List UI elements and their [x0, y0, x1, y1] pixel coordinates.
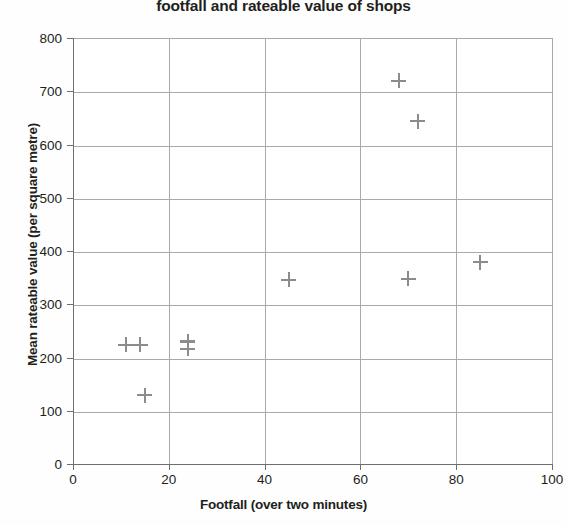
x-axis-tick [456, 464, 457, 470]
gridline-horizontal [73, 252, 552, 253]
y-axis-tick [67, 358, 73, 359]
y-axis-tick-label: 200 [0, 350, 62, 365]
data-point-marker [391, 73, 406, 88]
data-point-marker [410, 114, 425, 129]
x-axis-tick-label: 0 [43, 472, 103, 487]
y-axis-tick-label: 0 [0, 457, 62, 472]
data-point-marker [118, 337, 133, 352]
gridline-horizontal [73, 92, 552, 93]
x-axis-tick [169, 464, 170, 470]
y-axis-tick-label: 300 [0, 297, 62, 312]
x-axis-tick-label: 100 [522, 472, 567, 487]
gridline-horizontal [73, 199, 552, 200]
y-axis-tick [67, 251, 73, 252]
data-point-marker [180, 341, 195, 356]
x-axis-tick [360, 464, 361, 470]
y-axis-line [73, 38, 74, 465]
y-axis-tick-label: 700 [0, 84, 62, 99]
y-axis-tick [67, 145, 73, 146]
y-axis-tick [67, 304, 73, 305]
gridline-horizontal [73, 359, 552, 360]
x-axis-tick [73, 464, 74, 470]
x-axis-tick-label: 20 [139, 472, 199, 487]
gridline-horizontal [73, 305, 552, 306]
x-axis-tick-label: 40 [235, 472, 295, 487]
y-axis-tick-label: 400 [0, 244, 62, 259]
x-axis-title: Footfall (over two minutes) [0, 497, 567, 512]
y-axis-tick [67, 38, 73, 39]
y-axis-tick-label: 500 [0, 190, 62, 205]
gridline-horizontal [73, 412, 552, 413]
x-axis-tick-label: 80 [426, 472, 486, 487]
y-axis-tick-label: 800 [0, 31, 62, 46]
y-axis-tick [67, 198, 73, 199]
scatter-chart: footfall and rateable value of shops Foo… [0, 0, 567, 525]
gridline-horizontal [73, 146, 552, 147]
x-axis-tick-label: 60 [330, 472, 390, 487]
data-point-marker [133, 337, 148, 352]
gridline-vertical [265, 39, 266, 465]
data-point-marker [137, 388, 152, 403]
data-point-marker [473, 255, 488, 270]
x-axis-tick [552, 464, 553, 470]
data-point-marker [281, 272, 296, 287]
gridline-vertical [360, 39, 361, 465]
gridline-vertical [456, 39, 457, 465]
x-axis-tick [265, 464, 266, 470]
plot-area [73, 38, 553, 465]
y-axis-tick [67, 91, 73, 92]
y-axis-tick [67, 411, 73, 412]
gridline-vertical [169, 39, 170, 465]
data-point-marker [401, 271, 416, 286]
chart-title: footfall and rateable value of shops [0, 0, 567, 15]
y-axis-tick-label: 600 [0, 137, 62, 152]
y-axis-tick-label: 100 [0, 403, 62, 418]
x-axis-line [73, 464, 553, 465]
